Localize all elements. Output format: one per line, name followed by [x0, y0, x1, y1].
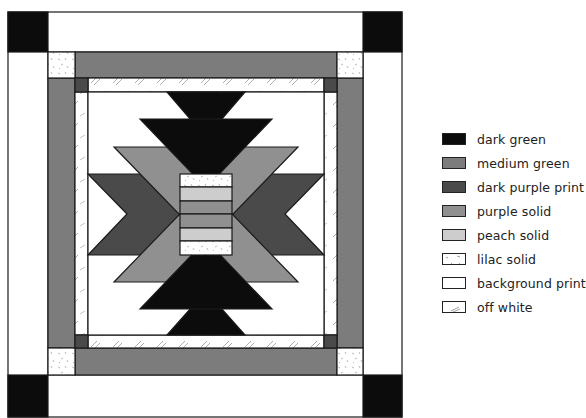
color-legend: dark green medium green dark purple prin… — [442, 127, 586, 319]
dark-purple-square-top-left — [75, 78, 88, 92]
legend-label: off white — [477, 300, 533, 315]
center-strip-peach-2 — [180, 228, 232, 241]
off-white-strip-right — [324, 92, 337, 335]
center-strip-purple-1 — [180, 201, 232, 214]
legend-item-purple-solid: purple solid — [442, 199, 586, 223]
dark-purple-print-swatch — [442, 181, 466, 193]
corner-square-bottom-left — [8, 375, 48, 417]
legend-item-dark-green: dark green — [442, 127, 586, 151]
lilac-square-bottom-right — [337, 348, 363, 375]
corner-square-top-left — [8, 12, 48, 52]
legend-item-off-white: off white — [442, 295, 586, 319]
medium-green-strip-top — [75, 52, 337, 78]
background-print-swatch — [442, 277, 466, 289]
center-strip-purple-2 — [180, 214, 232, 228]
dark-green-swatch — [442, 133, 466, 145]
center-strip-peach-1 — [180, 187, 232, 201]
legend-label: dark purple print — [477, 180, 584, 195]
corner-square-top-right — [363, 12, 402, 52]
off-white-strip-left — [75, 92, 88, 335]
corner-square-bottom-right — [363, 375, 402, 417]
legend-item-lilac-solid: lilac solid — [442, 247, 586, 271]
lilac-solid-swatch — [442, 253, 466, 265]
off-white-strip-bottom — [88, 335, 324, 348]
lilac-square-top-right — [337, 52, 363, 78]
legend-item-background-print: background print — [442, 271, 586, 295]
legend-label: peach solid — [477, 228, 549, 243]
lilac-square-top-left — [48, 52, 75, 78]
legend-label: background print — [477, 276, 586, 291]
legend-label: dark green — [477, 132, 546, 147]
peach-solid-swatch — [442, 229, 466, 241]
off-white-strip-top — [88, 78, 324, 92]
medium-green-strip-bottom — [75, 348, 337, 375]
quilt-block-diagram — [0, 0, 410, 418]
legend-item-dark-purple-print: dark purple print — [442, 175, 586, 199]
legend-item-medium-green: medium green — [442, 151, 586, 175]
center-strip-lilac-bottom — [180, 241, 232, 255]
dark-purple-square-bottom-right — [324, 335, 337, 348]
off-white-swatch — [442, 301, 466, 313]
medium-green-swatch — [442, 157, 466, 169]
medium-green-strip-right — [337, 78, 363, 348]
legend-item-peach-solid: peach solid — [442, 223, 586, 247]
center-strip-lilac-top — [180, 174, 232, 187]
purple-solid-swatch — [442, 205, 466, 217]
dark-purple-square-top-right — [324, 78, 337, 92]
lilac-square-bottom-left — [48, 348, 75, 375]
legend-label: medium green — [477, 156, 570, 171]
dark-purple-square-bottom-left — [75, 335, 88, 348]
medium-green-strip-left — [48, 78, 75, 348]
legend-label: purple solid — [477, 204, 551, 219]
legend-label: lilac solid — [477, 252, 536, 267]
